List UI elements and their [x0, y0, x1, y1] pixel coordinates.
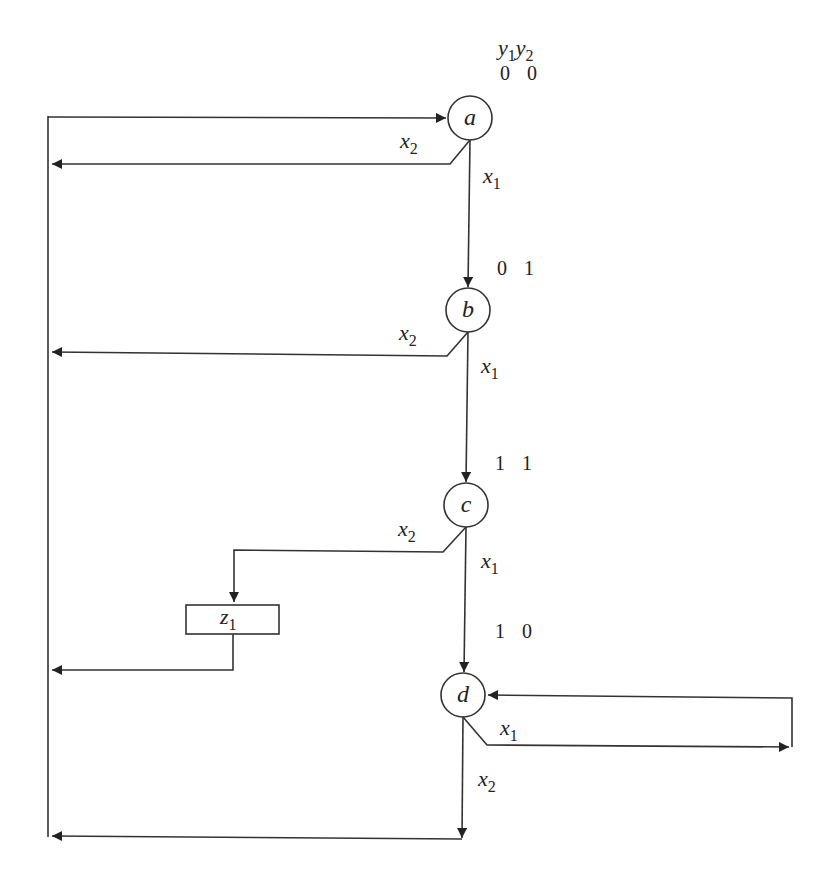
transition-b-x1 [466, 332, 468, 482]
cond-c-x2: x2 [398, 518, 416, 545]
state-c-code: 1 1 [495, 452, 538, 475]
header-y-labels: y1y2 [498, 37, 534, 64]
transition-a-x1 [468, 140, 470, 287]
transition-c-x1 [464, 527, 466, 672]
state-b-code: 0 1 [497, 257, 540, 280]
transition-c-x2 [234, 527, 466, 602]
transition-d-x2 [462, 717, 463, 838]
entry-arrow-to-a [48, 117, 446, 118]
cond-c-x1: x1 [481, 550, 499, 577]
cond-a-x2: x2 [400, 130, 418, 157]
z-label: z [220, 604, 229, 629]
cond-a-x1: x1 [483, 165, 501, 192]
state-c-label: c [444, 491, 488, 518]
cond-d-x1: x1 [500, 717, 518, 744]
cond-b-x2: x2 [399, 322, 417, 349]
state-d-label: d [441, 681, 485, 708]
state-a-code: 0 0 [500, 62, 543, 85]
bottom-return-line [52, 836, 462, 839]
z-sub: 1 [229, 616, 237, 633]
transition-z1-return [52, 634, 233, 670]
cond-b-x1: x1 [481, 355, 499, 382]
output-z1-label: z1 [220, 606, 237, 633]
state-d-code: 1 0 [495, 620, 538, 643]
y1-label: y [498, 35, 508, 60]
self-loop-return-d [488, 695, 792, 747]
diagram-canvas [0, 0, 838, 893]
cond-d-x2: x2 [478, 768, 496, 795]
state-a-label: a [448, 104, 492, 131]
state-b-label: b [446, 296, 490, 323]
y2-label: y [516, 35, 526, 60]
